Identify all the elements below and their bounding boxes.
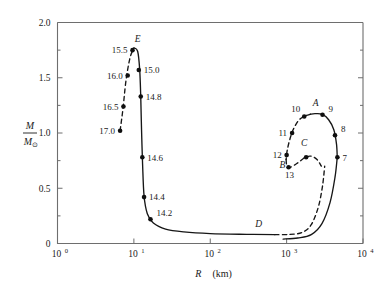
x-axis-symbol: R	[194, 268, 201, 279]
y-tick-label: 0	[46, 239, 51, 249]
chart-labels: 17.016.516.015.515.014.814.614.414.27891…	[99, 34, 347, 229]
marker-label: 14.4	[149, 192, 165, 202]
x-tick-mantissa: 10	[281, 249, 291, 259]
curve-white-dwarf-branch-stable	[134, 48, 275, 235]
data-point-marker	[125, 73, 130, 78]
curve-upper-dashed-branch-A-10-11-12	[286, 114, 310, 159]
y-tick-label: 1.5	[39, 73, 51, 83]
data-point-marker	[118, 128, 123, 133]
annotation-C: C	[301, 138, 308, 148]
y-axis-numerator: M	[25, 120, 35, 131]
marker-label: 10	[291, 104, 301, 114]
marker-label: 13	[285, 170, 295, 180]
marker-label: 8	[341, 124, 346, 134]
chart-axes: 00.51.01.52.0100101102103104	[39, 18, 375, 259]
annotation-E: E	[134, 34, 141, 44]
marker-label: 12	[273, 150, 282, 160]
marker-label: 11	[278, 128, 287, 138]
x-tick-exponent: 3	[294, 247, 298, 254]
data-point-marker	[130, 48, 135, 53]
annotation-A: A	[312, 98, 319, 108]
marker-label: 14.2	[156, 208, 172, 218]
data-point-marker	[148, 217, 153, 222]
x-tick-mantissa: 10	[128, 249, 138, 259]
curve-white-dwarf-branch-unstable	[120, 48, 134, 131]
marker-label: 16.5	[103, 102, 119, 112]
data-point-marker	[286, 165, 291, 170]
y-axis-denominator-subscript: ⊙	[32, 141, 38, 149]
annotation-D: D	[254, 219, 262, 229]
data-point-marker	[320, 112, 325, 117]
y-tick-label: 1.0	[39, 128, 51, 138]
x-tick-exponent: 2	[218, 247, 221, 254]
data-point-marker	[335, 155, 340, 160]
data-point-marker	[142, 195, 147, 200]
x-tick-mantissa: 10	[52, 249, 62, 259]
data-point-marker	[284, 153, 289, 158]
annotation-B: B	[279, 160, 285, 170]
data-point-marker	[140, 155, 145, 160]
curve-inner-dashed-branch-B-13-C	[286, 156, 321, 167]
x-axis-units: (km)	[213, 268, 232, 280]
marker-label: 9	[329, 104, 334, 114]
x-tick-exponent: 0	[65, 247, 69, 254]
marker-label: 14.6	[147, 153, 163, 163]
marker-label: 16.0	[107, 71, 123, 81]
x-tick-mantissa: 10	[205, 249, 215, 259]
data-point-marker	[121, 104, 126, 109]
data-point-marker	[138, 94, 143, 99]
curve-lower-dashed-branch-D	[275, 166, 325, 235]
data-point-marker	[302, 114, 307, 119]
data-point-marker	[333, 133, 338, 138]
y-tick-label: 2.0	[39, 18, 51, 28]
marker-label: 17.0	[99, 126, 115, 136]
data-point-marker	[137, 68, 142, 73]
data-point-marker	[290, 131, 295, 136]
x-tick-label: 100	[52, 247, 69, 259]
data-point-marker	[304, 155, 309, 160]
x-tick-mantissa: 10	[357, 249, 367, 259]
y-tick-label: 0.5	[39, 184, 51, 194]
marker-label: 14.8	[146, 92, 162, 102]
x-tick-exponent: 1	[141, 247, 144, 254]
marker-label: 15.5	[112, 45, 128, 55]
x-tick-label: 102	[205, 247, 221, 259]
x-tick-label: 101	[128, 247, 144, 259]
marker-label: 15.0	[144, 65, 160, 75]
marker-label: 7	[342, 153, 347, 163]
x-tick-label: 103	[281, 247, 298, 259]
mass-radius-chart: 00.51.01.52.0100101102103104 17.016.516.…	[0, 0, 382, 286]
x-tick-label: 104	[357, 247, 374, 259]
mass-radius-figure: 00.51.01.52.0100101102103104 17.016.516.…	[0, 0, 382, 286]
x-tick-exponent: 4	[370, 247, 374, 254]
